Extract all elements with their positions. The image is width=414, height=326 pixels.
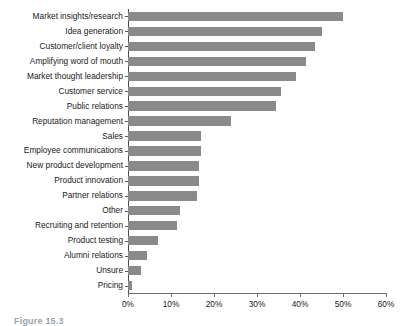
- x-axis-tick: [343, 293, 344, 297]
- figure-caption: Figure 15.3: [14, 316, 64, 326]
- x-axis-tick-label: 10%: [163, 299, 180, 309]
- bar-row: Customer service: [128, 84, 386, 99]
- bar: [128, 57, 306, 66]
- x-axis-tick: [257, 293, 258, 297]
- bar-category-label: Reputation management: [32, 115, 123, 128]
- bar: [128, 101, 276, 110]
- x-axis-tick-label: 60%: [378, 299, 395, 309]
- bar-category-label: Other: [102, 204, 123, 217]
- bar-row: Sales: [128, 129, 386, 144]
- bar: [128, 27, 322, 36]
- bar: [128, 236, 158, 245]
- bar: [128, 87, 281, 96]
- bar-row: Market insights/research: [128, 9, 386, 24]
- bar-row: New product development: [128, 158, 386, 173]
- bar-category-label: Market insights/research: [33, 10, 123, 23]
- bar-category-label: Amplifying word of mouth: [30, 55, 123, 68]
- bar-row: Alumni relations: [128, 248, 386, 263]
- x-axis-tick: [214, 293, 215, 297]
- bar-row: Amplifying word of mouth: [128, 54, 386, 69]
- bar-row: Unsure: [128, 263, 386, 278]
- bar: [128, 176, 199, 185]
- bar-row: Product testing: [128, 233, 386, 248]
- bar: [128, 221, 177, 230]
- x-axis-tick-label: 20%: [206, 299, 223, 309]
- bar-chart: Market insights/researchIdea generationC…: [0, 0, 414, 326]
- x-axis-tick: [128, 293, 129, 297]
- x-axis-tick: [386, 293, 387, 297]
- bar: [128, 206, 180, 215]
- bar-row: Public relations: [128, 99, 386, 114]
- x-axis-tick: [171, 293, 172, 297]
- x-axis-tick-label: 0%: [122, 299, 134, 309]
- bar-row: Reputation management: [128, 114, 386, 129]
- bar-category-label: Customer/client loyalty: [40, 40, 123, 53]
- bar-category-label: Sales: [102, 130, 123, 143]
- bar-category-label: Product innovation: [54, 174, 123, 187]
- bar: [128, 131, 201, 140]
- bar-row: Other: [128, 203, 386, 218]
- x-axis-tick: [300, 293, 301, 297]
- bar-row: Pricing: [128, 278, 386, 293]
- bar-category-label: Alumni relations: [64, 249, 123, 262]
- bar-category-label: New product development: [27, 159, 123, 172]
- bar-category-label: Idea generation: [65, 25, 123, 38]
- plot-area: Market insights/researchIdea generationC…: [128, 9, 386, 293]
- bar-category-label: Market thought leadership: [27, 70, 123, 83]
- bar-category-label: Unsure: [96, 264, 123, 277]
- bar-category-label: Product testing: [68, 234, 123, 247]
- bar: [128, 42, 315, 51]
- figure-label: Figure 15.3: [14, 316, 64, 326]
- bar-category-label: Public relations: [67, 100, 123, 113]
- bar: [128, 72, 296, 81]
- bar: [128, 116, 231, 125]
- bar: [128, 146, 201, 155]
- bar: [128, 161, 199, 170]
- bar-category-label: Partner relations: [62, 189, 123, 202]
- bar: [128, 251, 147, 260]
- bar-row: Product innovation: [128, 173, 386, 188]
- bar-category-label: Recruiting and retention: [35, 219, 123, 232]
- bar-row: Recruiting and retention: [128, 218, 386, 233]
- bar: [128, 191, 197, 200]
- bar: [128, 12, 343, 21]
- x-axis-tick-label: 40%: [292, 299, 309, 309]
- bar-row: Customer/client loyalty: [128, 39, 386, 54]
- bar-row: Market thought leadership: [128, 69, 386, 84]
- bar-row: Partner relations: [128, 188, 386, 203]
- bar-category-label: Employee communications: [24, 144, 123, 157]
- x-axis-tick-label: 30%: [249, 299, 266, 309]
- bar: [128, 281, 132, 290]
- bar-row: Employee communications: [128, 144, 386, 159]
- bar-category-label: Pricing: [98, 279, 123, 292]
- bar: [128, 266, 141, 275]
- bar-row: Idea generation: [128, 24, 386, 39]
- x-axis-tick-label: 50%: [335, 299, 352, 309]
- bar-category-label: Customer service: [58, 85, 123, 98]
